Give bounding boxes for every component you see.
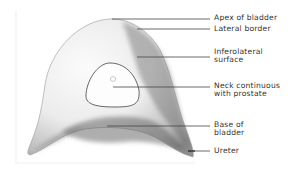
label-apex: Apex of bladder <box>214 14 277 22</box>
label-inferolateral-surface: Inferolateral surface <box>214 48 263 65</box>
label-neck: Neck continuous with prostate <box>214 82 280 99</box>
label-lateral-border: Lateral border <box>214 25 271 33</box>
bladder-diagram: Apex of bladder Lateral border Inferolat… <box>0 0 296 170</box>
label-ureter: Ureter <box>214 147 239 155</box>
label-base: Base of bladder <box>214 121 244 138</box>
